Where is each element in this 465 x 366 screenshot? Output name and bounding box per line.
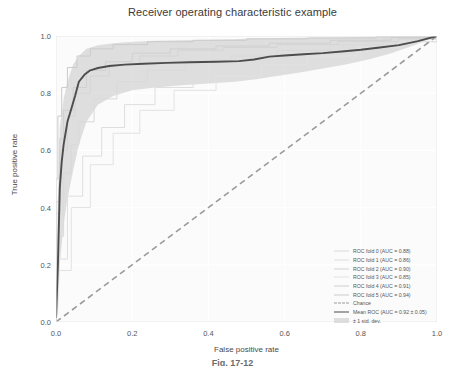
x-axis-label: False positive rate — [56, 345, 437, 354]
x-tick-label: 0.8 — [346, 329, 376, 338]
legend-label: Chance — [353, 299, 371, 307]
legend-item[interactable]: ROC fold 0 (AUC = 0.88) — [334, 247, 446, 256]
legend-swatch-line — [334, 273, 349, 281]
y-tick-label: 0.2 — [25, 261, 51, 270]
legend-swatch-line — [334, 308, 349, 316]
legend-item[interactable]: ROC fold 1 (AUC = 0.86) — [334, 256, 446, 265]
legend-label: ROC fold 0 (AUC = 0.88) — [353, 247, 411, 255]
legend-item[interactable]: ROC fold 2 (AUC = 0.90) — [334, 264, 446, 273]
legend-item[interactable]: ROC fold 3 (AUC = 0.85) — [334, 273, 446, 282]
legend-item-band[interactable]: ± 1 std. dev. — [334, 317, 446, 326]
legend-label: Mean ROC (AUC = 0.92 ± 0.05) — [353, 308, 427, 316]
legend-swatch-line — [334, 282, 349, 290]
legend-label: ROC fold 2 (AUC = 0.90) — [353, 265, 411, 273]
legend-label: ROC fold 5 (AUC = 0.94) — [353, 291, 411, 299]
legend-item[interactable]: ROC fold 4 (AUC = 0.91) — [334, 282, 446, 291]
y-tick-label: 0.6 — [25, 146, 51, 155]
legend-label: ± 1 std. dev. — [353, 317, 381, 325]
legend-swatch-line — [334, 247, 349, 255]
legend-label: ROC fold 1 (AUC = 0.86) — [353, 256, 411, 264]
y-axis-label: True positive rate — [10, 105, 19, 225]
legend-swatch-line — [334, 256, 349, 264]
legend-swatch-line — [334, 291, 349, 299]
y-tick-label: 0.0 — [25, 318, 51, 327]
legend-swatch-line — [334, 265, 349, 273]
x-tick-label: 0.0 — [41, 329, 71, 338]
legend-item[interactable]: ROC fold 5 (AUC = 0.94) — [334, 290, 446, 299]
x-tick-label: 1.0 — [422, 329, 452, 338]
roc-figure: Receiver operating characteristic exampl… — [0, 0, 465, 366]
legend-label: ROC fold 4 (AUC = 0.91) — [353, 282, 411, 290]
y-tick-label: 0.8 — [25, 89, 51, 98]
legend-swatch-line — [334, 299, 349, 307]
y-tick-label: 0.4 — [25, 204, 51, 213]
chart-title: Receiver operating characteristic exampl… — [0, 6, 465, 18]
figure-caption: Fig. 17-12 — [0, 358, 465, 366]
legend-item[interactable]: Mean ROC (AUC = 0.92 ± 0.05) — [334, 308, 446, 317]
x-tick-label: 0.2 — [117, 329, 147, 338]
legend-item[interactable]: Chance — [334, 299, 446, 308]
x-tick-label: 0.4 — [193, 329, 223, 338]
legend-swatch-band — [334, 318, 349, 323]
legend: ROC fold 0 (AUC = 0.88)ROC fold 1 (AUC =… — [334, 247, 446, 325]
y-tick-label: 1.0 — [25, 32, 51, 41]
x-tick-label: 0.6 — [270, 329, 300, 338]
legend-label: ROC fold 3 (AUC = 0.85) — [353, 273, 411, 281]
